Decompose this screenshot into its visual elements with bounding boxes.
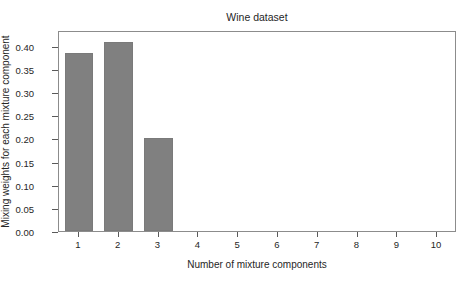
x-tick-mark <box>237 232 238 237</box>
x-axis: 12345678910 <box>0 0 472 282</box>
chart-figure: Wine dataset 0.000.050.100.150.200.250.3… <box>0 0 472 282</box>
y-axis-label: Mixing weights for each mixture componen… <box>0 31 14 232</box>
x-tick-label: 7 <box>314 239 319 250</box>
x-tick-mark <box>118 232 119 237</box>
x-tick-label: 2 <box>115 239 120 250</box>
x-tick-mark <box>197 232 198 237</box>
x-tick-label: 4 <box>195 239 200 250</box>
x-tick-label: 3 <box>155 239 160 250</box>
x-tick-label: 8 <box>354 239 359 250</box>
x-tick-mark <box>158 232 159 237</box>
x-tick-label: 1 <box>75 239 80 250</box>
x-tick-mark <box>357 232 358 237</box>
x-tick-label: 6 <box>274 239 279 250</box>
x-axis-label: Number of mixture components <box>58 259 456 270</box>
x-tick-label: 9 <box>394 239 399 250</box>
x-tick-label: 5 <box>234 239 239 250</box>
x-tick-mark <box>436 232 437 237</box>
x-tick-label: 10 <box>431 239 442 250</box>
x-tick-mark <box>396 232 397 237</box>
x-tick-mark <box>317 232 318 237</box>
x-tick-mark <box>78 232 79 237</box>
x-tick-mark <box>277 232 278 237</box>
